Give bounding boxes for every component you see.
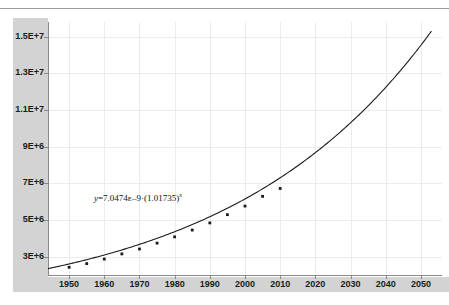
data-layer bbox=[0, 0, 449, 305]
data-point-marker bbox=[279, 187, 282, 190]
equation-exponent-value: –9 bbox=[132, 193, 141, 203]
data-point-marker bbox=[103, 258, 106, 261]
data-point-marker bbox=[85, 262, 88, 265]
data-point-marker bbox=[68, 266, 71, 269]
equation-power: x bbox=[179, 192, 182, 198]
fit-equation-annotation: y=7.0474E–9·(1.01735)x bbox=[94, 192, 182, 203]
chart-figure: 1.5E+71.3E+71.1E+79E+67E+65E+63E+6 19501… bbox=[0, 0, 449, 305]
data-point-marker bbox=[156, 242, 159, 245]
data-point-marker bbox=[138, 248, 141, 251]
data-point-marker bbox=[226, 213, 229, 216]
fit-curve bbox=[48, 31, 431, 269]
data-point-marker bbox=[244, 205, 247, 208]
equation-base: (1.01735) bbox=[144, 193, 179, 203]
data-point-marker bbox=[173, 235, 176, 238]
data-point-marker bbox=[261, 195, 264, 198]
equation-coefficient: =7.0474 bbox=[98, 193, 128, 203]
data-point-marker bbox=[208, 222, 211, 225]
data-point-marker bbox=[120, 253, 123, 256]
data-point-marker bbox=[191, 229, 194, 232]
